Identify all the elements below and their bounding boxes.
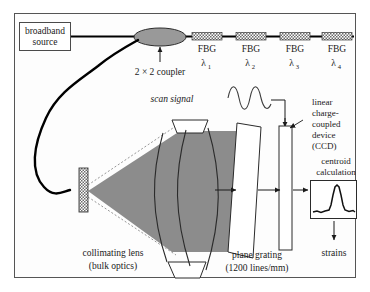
centroid-plot xyxy=(311,181,357,219)
fbg-2-index: 2 xyxy=(252,63,255,70)
fbg-3-name: FBG xyxy=(286,44,305,54)
fbg-4-name: FBG xyxy=(328,44,347,54)
ccd-line1: linear xyxy=(312,97,333,107)
fiber-end-block xyxy=(79,168,88,212)
centroid-line2: calculation xyxy=(316,167,356,177)
scan-signal-label: scan signal xyxy=(150,94,193,104)
strains-label: strains xyxy=(322,248,347,258)
collimating-lens-barrel-bottom xyxy=(168,262,206,278)
centroid-line1: centroid xyxy=(321,156,351,166)
fbg-3-lambda: λ xyxy=(289,58,294,68)
ccd-detector-bar xyxy=(279,126,292,250)
collimating-lens-line1: collimating lens xyxy=(83,248,144,258)
fbg-1-name: FBG xyxy=(198,44,217,54)
fbg-2-name: FBG xyxy=(242,44,261,54)
ccd-line5: (CCD) xyxy=(312,141,337,151)
coupler-ellipse xyxy=(134,28,186,46)
centroid-label: centroid calculation xyxy=(316,156,356,177)
coupler-label: 2 × 2 coupler xyxy=(135,67,186,77)
fbg-4-lambda: λ xyxy=(331,58,336,68)
broadband-source-box: broadband source xyxy=(20,23,71,51)
fbg-sensor-system-figure: broadband source 2 × 2 coupler FBG λ 1 F… xyxy=(0,0,370,292)
fbg-1-index: 1 xyxy=(208,63,211,70)
ccd-line3: coupled xyxy=(312,119,341,129)
fbg-1-lambda: λ xyxy=(201,58,206,68)
broadband-source-line2: source xyxy=(33,37,58,47)
fbg-2-lambda: λ xyxy=(245,58,250,68)
collimating-lens-line2: (bulk optics) xyxy=(89,261,137,272)
collimating-lens-barrel xyxy=(172,120,208,133)
plane-grating-line2: (1200 lines/mm) xyxy=(225,263,288,274)
ccd-line2: charge- xyxy=(312,108,339,118)
plane-grating-line1: plane grating xyxy=(232,250,282,260)
broadband-source-line1: broadband xyxy=(25,26,65,36)
ccd-line4: device xyxy=(312,130,335,140)
